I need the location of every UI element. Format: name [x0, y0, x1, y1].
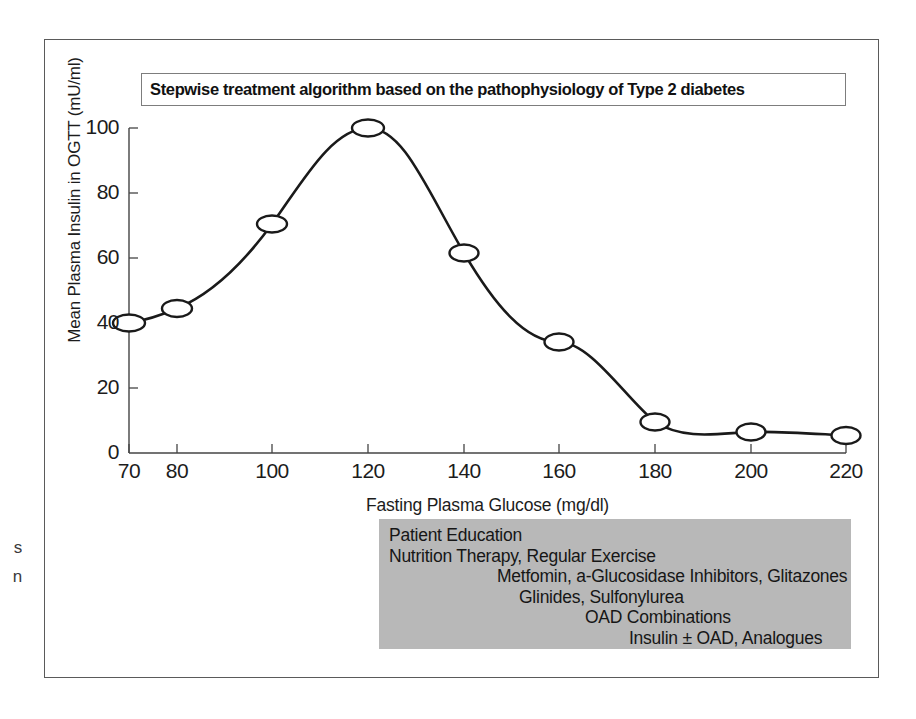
data-point-marker [641, 414, 670, 431]
x-tick-label-160: 160 [529, 459, 589, 483]
y-axis-title: Mean Plasma Insulin in OGTT (mU/ml) [65, 35, 85, 365]
data-point-marker [257, 216, 287, 233]
therapy-step-line: Metfomin, a-Glucosidase Inhibitors, Glit… [389, 566, 843, 587]
x-tick-label-80: 80 [147, 459, 207, 483]
data-curve [129, 128, 559, 371]
y-tick-label-100: 100 [51, 115, 119, 139]
page-margin-text-fragment: s n [0, 533, 22, 591]
data-point-markers [113, 120, 861, 445]
data-point-marker [737, 424, 766, 441]
y-tick-label-40: 40 [51, 310, 119, 334]
x-tick-label-120: 120 [338, 459, 398, 483]
x-tick-label-140: 140 [434, 459, 494, 483]
therapy-step-line: Glinides, Sulfonylurea [389, 587, 843, 608]
x-tick-label-220: 220 [816, 459, 876, 483]
data-point-marker [450, 245, 479, 262]
y-tick-label-20: 20 [51, 375, 119, 399]
y-tick-label-80: 80 [51, 180, 119, 204]
data-point-marker [545, 334, 574, 351]
therapy-step-line: OAD Combinations [389, 607, 843, 628]
curve-path [129, 128, 846, 436]
x-tick-label-100: 100 [242, 459, 302, 483]
y-tick-label-60: 60 [51, 245, 119, 269]
therapy-step-line: Patient Education [389, 525, 843, 546]
therapy-steps-box: Patient Education Nutrition Therapy, Reg… [379, 519, 851, 649]
x-tick-label-200: 200 [721, 459, 781, 483]
therapy-step-line: Insulin ± OAD, Analogues [389, 628, 843, 649]
data-point-marker [832, 427, 861, 444]
y-axis-ticks [129, 128, 138, 388]
x-axis-ticks [129, 444, 846, 453]
data-point-marker [162, 300, 192, 317]
figure-frame: Stepwise treatment algorithm based on th… [44, 39, 879, 678]
therapy-step-line: Nutrition Therapy, Regular Exercise [389, 546, 843, 567]
x-tick-label-180: 180 [625, 459, 685, 483]
data-point-marker [352, 120, 384, 137]
x-axis-title: Fasting Plasma Glucose (mg/dl) [129, 495, 846, 516]
